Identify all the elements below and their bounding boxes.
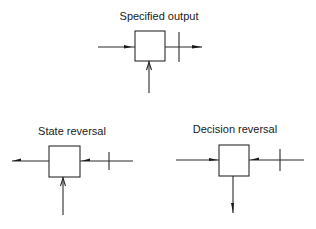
arrowhead-icon — [250, 158, 259, 161]
specified-output-diagram: Specified output — [98, 10, 202, 93]
arrowhead-icon — [192, 45, 202, 49]
specified-output-title: Specified output — [120, 10, 199, 22]
state-reversal-diagram: State reversal — [12, 125, 133, 215]
decision-reversal-diagram: Decision reversal — [176, 123, 304, 213]
process-box — [219, 145, 249, 176]
arrowhead-icon — [124, 45, 132, 49]
process-box — [49, 146, 80, 177]
diagram-canvas: Specified output State reversal Decision… — [0, 0, 316, 229]
decision-reversal-title: Decision reversal — [193, 123, 277, 135]
process-box — [135, 31, 165, 61]
arrowhead-icon — [12, 159, 21, 162]
state-reversal-title: State reversal — [38, 125, 106, 137]
